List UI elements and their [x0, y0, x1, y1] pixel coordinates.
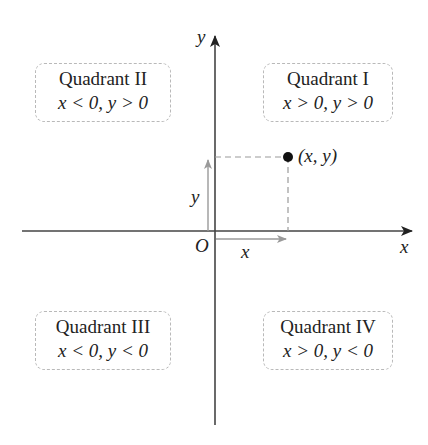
point-label: (x, y): [298, 145, 337, 167]
point-marker: [283, 152, 293, 162]
quadrant-2-name: Quadrant II: [36, 67, 170, 91]
quadrant-3-name: Quadrant III: [36, 315, 170, 339]
quadrant-1-box: Quadrant I x > 0, y > 0: [263, 63, 393, 122]
y-axis-label: y: [197, 26, 205, 48]
quadrant-4-name: Quadrant IV: [264, 315, 392, 339]
quadrant-4-box: Quadrant IV x > 0, y < 0: [263, 311, 393, 370]
quadrant-3-condition: x < 0, y < 0: [36, 339, 170, 363]
x-component-label: x: [241, 241, 249, 263]
quadrant-1-name: Quadrant I: [264, 67, 392, 91]
quadrant-4-condition: x > 0, y < 0: [264, 339, 392, 363]
origin-label: O: [195, 235, 209, 257]
y-component-label: y: [191, 186, 199, 208]
quadrant-2-condition: x < 0, y > 0: [36, 91, 170, 115]
quadrant-1-condition: x > 0, y > 0: [264, 91, 392, 115]
quadrant-3-box: Quadrant III x < 0, y < 0: [35, 311, 171, 370]
x-axis-label: x: [400, 236, 408, 258]
quadrant-2-box: Quadrant II x < 0, y > 0: [35, 63, 171, 122]
